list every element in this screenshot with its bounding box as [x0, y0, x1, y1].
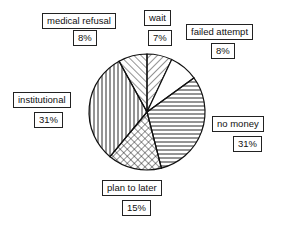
pct-no-money: 31% [233, 136, 262, 152]
label-wait: wait [144, 10, 171, 26]
pct-failed-attempt: 8% [211, 43, 235, 59]
label-institutional: institutional [13, 92, 71, 108]
pct-wait: 7% [148, 30, 172, 46]
label-no-money: no money [212, 116, 264, 132]
pct-plan-to-later: 15% [122, 200, 151, 216]
label-failed-attempt: failed attempt [186, 24, 253, 40]
pct-institutional: 31% [34, 112, 63, 128]
pct-medical-refusal: 8% [73, 30, 97, 46]
label-plan-to-later: plan to later [102, 180, 162, 196]
label-medical-refusal: medical refusal [42, 13, 116, 29]
